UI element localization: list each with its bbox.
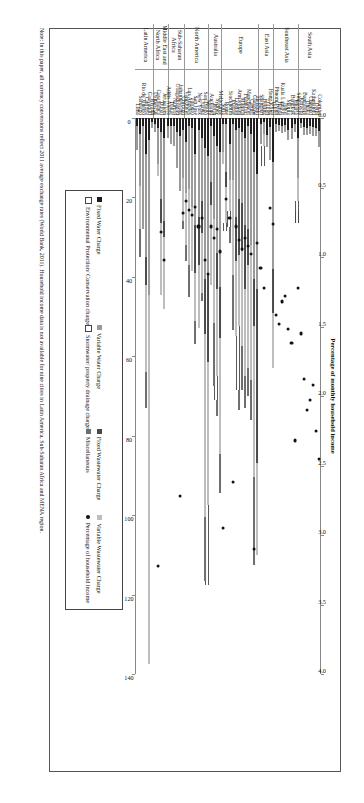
bar-segment — [182, 177, 184, 221]
bar-segment — [253, 326, 255, 477]
legend-item-label: Environmental Protection/ Conservation c… — [85, 207, 92, 325]
stacked-bar — [154, 118, 156, 132]
legend-item-percentage-household-income: Percentage of household income — [85, 515, 92, 603]
income-percentage-marker — [302, 377, 305, 380]
bar-segment — [294, 124, 296, 132]
bar-segment — [256, 173, 258, 288]
stacked-bar — [176, 118, 178, 168]
table-row — [169, 118, 172, 674]
table-row — [206, 118, 209, 674]
bar-segment — [263, 121, 265, 133]
table-row — [271, 118, 274, 674]
legend-swatch-icon — [97, 428, 102, 433]
table-row — [302, 118, 305, 674]
bar-segment — [207, 274, 209, 361]
bar-segment — [194, 118, 196, 154]
bar-segment — [207, 118, 209, 156]
stacked-bar — [269, 118, 271, 160]
bar-segment — [269, 126, 271, 160]
income-percentage-marker — [278, 322, 281, 325]
axis-tick-label: 140 — [124, 674, 133, 681]
stacked-bar — [275, 118, 277, 132]
bar-segment — [219, 286, 221, 338]
bar-segment — [145, 284, 147, 371]
stacked-bar — [179, 118, 181, 191]
table-row — [278, 118, 281, 674]
table-row — [188, 118, 191, 674]
table-row — [253, 118, 256, 674]
axis-tick — [132, 197, 135, 198]
legend-swatch-icon — [97, 324, 102, 329]
plot-inner — [135, 118, 321, 674]
bar-segment — [309, 118, 311, 126]
bar-segment — [244, 118, 246, 138]
income-percentage-marker — [188, 208, 191, 211]
legend-item-label: Percentage of household income — [85, 522, 92, 603]
bar-segment — [204, 334, 206, 517]
stacked-bar — [253, 118, 255, 565]
bar-segment — [300, 118, 302, 123]
stacked-bar — [191, 118, 193, 271]
table-row — [240, 118, 243, 674]
legend-swatch-icon — [85, 197, 92, 204]
stacked-bar — [303, 118, 305, 135]
stacked-bar — [284, 118, 286, 132]
bar-segment — [253, 151, 255, 278]
bar-segment — [256, 288, 258, 463]
table-row — [185, 118, 188, 674]
stacked-bar — [139, 118, 141, 257]
stacked-bar — [194, 118, 196, 344]
income-percentage-marker — [284, 294, 287, 297]
bar-segment — [142, 118, 144, 126]
table-row — [147, 118, 150, 674]
bar-segment — [232, 118, 234, 124]
bar-segment — [241, 203, 243, 251]
bar-segment — [151, 118, 153, 122]
income-percentage-marker — [228, 216, 231, 219]
chart-legend: Fixed Water ChargeEnvironmental Protecti… — [65, 190, 123, 610]
income-percentage-marker — [253, 547, 256, 550]
bar-segment — [198, 129, 200, 216]
axis-tick — [132, 356, 135, 357]
table-row — [284, 118, 287, 674]
bar-segment — [136, 118, 138, 126]
axis-tick — [132, 276, 135, 277]
income-percentage-marker — [200, 216, 203, 219]
income-percentage-marker — [234, 224, 237, 227]
axis-tick-label: 40 — [126, 276, 132, 283]
income-percentage-marker — [309, 398, 312, 401]
bar-segment — [235, 129, 237, 216]
bar-segment — [260, 118, 262, 124]
bar-segment — [250, 245, 252, 380]
legend-item-miscellaneous: Miscellaneous — [85, 428, 92, 515]
bar-segment — [235, 118, 237, 130]
bar-segment — [173, 125, 175, 145]
income-percentage-marker — [256, 241, 259, 244]
bar-segment — [266, 118, 268, 135]
bar-segment — [176, 131, 178, 167]
table-row — [234, 118, 237, 674]
axis-tick-label: 0 — [127, 118, 130, 125]
table-row — [138, 118, 141, 674]
bar-segment — [247, 264, 249, 367]
stacked-bar — [256, 118, 258, 555]
stacked-bar — [309, 118, 311, 134]
bar-segment — [247, 368, 249, 396]
table-row — [154, 118, 157, 674]
bar-segment — [318, 130, 320, 146]
bar-segment — [191, 118, 193, 128]
bar-segment — [253, 278, 255, 326]
table-row — [141, 118, 144, 674]
table-row — [228, 118, 231, 674]
stacked-bar — [210, 118, 212, 285]
stacked-bar — [204, 118, 206, 581]
bar-segment — [139, 133, 141, 185]
income-percentage-marker — [306, 408, 309, 411]
income-percentage-marker — [231, 480, 234, 483]
income-percentage-marker — [197, 224, 200, 227]
bar-segment — [238, 127, 240, 198]
city-label: Lima — [134, 103, 140, 115]
stacked-bar — [232, 118, 234, 330]
bar-segment — [194, 272, 196, 320]
bar-segment — [309, 126, 311, 134]
